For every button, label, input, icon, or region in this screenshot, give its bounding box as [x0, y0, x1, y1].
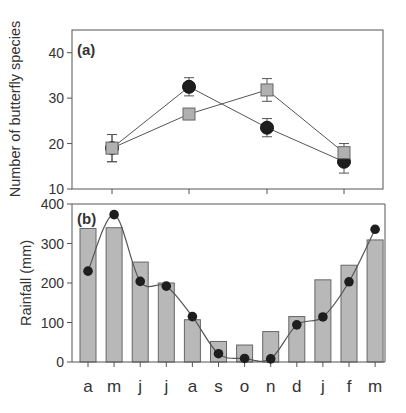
y-tick-label: 40 [48, 45, 64, 61]
y-tick-label: 200 [41, 275, 65, 291]
line-marker [292, 320, 302, 330]
rainfall-bar [106, 228, 122, 362]
x-tick-label: a [188, 377, 198, 396]
x-tick-label: s [214, 377, 223, 396]
x-tick-label: m [107, 377, 121, 396]
line-marker [240, 354, 250, 364]
line-marker [318, 312, 328, 322]
y-tick-label: 300 [41, 236, 65, 252]
line-marker [135, 277, 145, 287]
square-marker [106, 142, 118, 154]
y-tick-label: 20 [48, 136, 64, 152]
x-tick-label: j [163, 377, 168, 396]
figure: 10203040 0100200300400amjjasondjfm Numbe… [0, 0, 406, 413]
square-marker [338, 147, 350, 159]
y-tick-label: 10 [48, 181, 64, 197]
y-tick-label: 400 [41, 196, 65, 212]
x-tick-label: m [368, 377, 382, 396]
x-tick-label: d [292, 377, 301, 396]
y-tick-label: 0 [56, 354, 64, 370]
rainfall-bar [184, 320, 200, 362]
x-tick-label: a [83, 377, 93, 396]
panel-a-frame [72, 30, 383, 189]
panel-a-y-axis-label: Number of butterfly species [7, 21, 23, 198]
x-tick-label: f [347, 377, 352, 396]
y-tick-label: 100 [41, 315, 65, 331]
y-tick-label: 30 [48, 90, 64, 106]
panel-a: 10203040 [48, 30, 383, 197]
panel-b-label: (b) [77, 210, 96, 227]
panel-a-label: (a) [77, 41, 95, 58]
circle-marker [261, 121, 274, 134]
square-marker [183, 108, 195, 120]
line-marker [83, 266, 93, 276]
smoothed-line [88, 215, 375, 362]
x-tick-label: n [266, 377, 275, 396]
line-marker [344, 277, 354, 287]
line-marker [370, 224, 380, 234]
line-marker [214, 349, 224, 359]
line-marker [266, 354, 276, 364]
panel-b-y-axis-label: Rainfall (mm) [18, 240, 34, 326]
line-marker [162, 281, 172, 291]
x-tick-label: j [137, 377, 142, 396]
rainfall-bar [158, 283, 174, 362]
x-tick-label: j [320, 377, 325, 396]
x-tick-label: o [240, 377, 249, 396]
rainfall-bar [367, 240, 383, 362]
line-marker [188, 312, 198, 322]
squares-line [112, 90, 344, 153]
circle-marker [183, 80, 196, 93]
line-marker [109, 210, 119, 220]
rainfall-bar [80, 228, 96, 362]
square-marker [261, 84, 273, 96]
